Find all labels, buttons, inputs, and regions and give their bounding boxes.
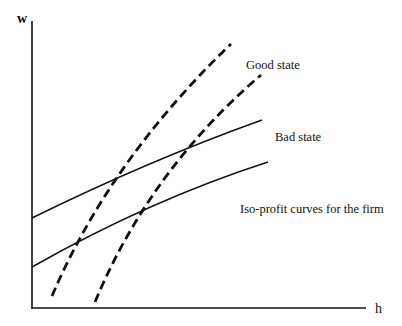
x-axis-label: h <box>375 301 382 316</box>
bad-state-label: Bad state <box>275 130 322 144</box>
good-state-label: Good state <box>246 58 300 72</box>
solid-curve-lower <box>32 162 268 267</box>
dashed-curve-left <box>52 44 231 296</box>
y-axis-label: w <box>17 11 28 26</box>
iso-profit-label: Iso-profit curves for the firm <box>240 202 384 216</box>
iso-profit-diagram: w h Good state Bad state Iso-profit curv… <box>0 0 402 326</box>
dashed-curve-right <box>95 75 261 302</box>
